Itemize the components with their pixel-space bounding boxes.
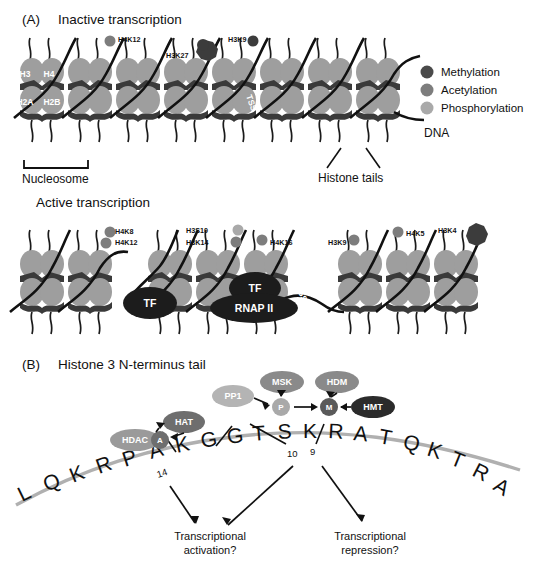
modification-mark — [231, 237, 242, 248]
modification-mark — [248, 36, 259, 47]
legend-label-phosphorylation: Phosphorylation — [441, 102, 523, 114]
enzyme-label-pp1: PP1 — [224, 391, 241, 401]
legend-swatch-methylation — [421, 66, 434, 79]
core-label-h4: H4 — [44, 69, 55, 79]
panel-b-title: Histone 3 N-terminus tail — [58, 357, 206, 372]
enzyme-label-msk: MSK — [272, 377, 293, 387]
modification-mark — [233, 225, 244, 236]
modification-mark — [105, 36, 116, 47]
panel-a-title: Inactive transcription — [58, 12, 182, 27]
modification-mark — [105, 227, 116, 238]
modification-label-acetyl: A — [157, 436, 163, 445]
modification-label-methyl: M — [326, 403, 333, 412]
mark-label-h3s10: H3S10 — [186, 226, 208, 235]
mark-label-h4k12: H4K12 — [115, 238, 137, 247]
mark-label-h4k8: H4K8 — [115, 227, 133, 236]
dna-label: DNA — [424, 126, 449, 140]
enzyme-label-hat: HAT — [175, 417, 193, 427]
legend-label-methylation: Methylation — [441, 66, 500, 78]
seq-letter: R — [328, 419, 344, 443]
mark-label-h4k5: H4K5 — [406, 229, 424, 238]
modification-mark — [393, 227, 404, 238]
modification-mark — [349, 235, 360, 246]
panel-a-tag: (A) — [22, 12, 40, 27]
enzyme-label-hmt: HMT — [363, 402, 383, 412]
enzyme-label-hdac: HDAC — [122, 435, 148, 445]
modification-mark — [197, 39, 209, 51]
mark-label-h3k9: H3K9 — [328, 238, 346, 247]
mark-label-h4k12: H4K12 — [118, 35, 140, 44]
figure-root: (A) Inactive transcription H3 H4 H2A H2B… — [0, 0, 535, 565]
seq-letter: G — [225, 423, 244, 448]
panel-a-subtitle: Active transcription — [36, 195, 150, 210]
enzyme-label-hdm: HDM — [327, 377, 348, 387]
modification-mark — [257, 235, 268, 246]
mark-label-h3k27: H3K27 — [166, 51, 188, 60]
mark-label-h3k14: H3K14 — [186, 238, 208, 247]
mark-label-h3k9: H3K9 — [228, 35, 246, 44]
panel-b-tag: (B) — [22, 357, 40, 372]
histone-tails-label: Histone tails — [318, 171, 383, 185]
modification-label-phospho: P — [278, 403, 284, 412]
mark-label-h4k16: H4K16 — [270, 238, 292, 247]
outcome-activation-line2: activation? — [184, 544, 237, 556]
outcome-repression-line2: repression? — [341, 544, 398, 556]
outcome-repression-line1: Transcriptional — [334, 530, 406, 542]
position-number-9: 9 — [310, 446, 315, 457]
core-label-h3: H3 — [20, 69, 31, 79]
rnap-label: RNAP II — [235, 302, 273, 314]
tf-label: TF — [249, 282, 262, 294]
legend-label-acetylation: Acetylation — [441, 84, 497, 96]
mark-label-h3k4: H3K4 — [438, 226, 456, 235]
legend-swatch-acetylation — [421, 84, 434, 97]
seq-letter: T — [251, 421, 266, 445]
position-number-10: 10 — [287, 448, 298, 459]
seq-letter: A — [353, 421, 369, 445]
figure-canvas: (A) Inactive transcription H3 H4 H2A H2B… — [0, 0, 535, 565]
legend-swatch-phosphorylation — [421, 102, 434, 115]
seq-letter: K — [303, 419, 317, 442]
modification-mark — [101, 238, 112, 249]
core-label-h2a: H2A — [16, 97, 33, 107]
core-label-h2b: H2B — [43, 97, 60, 107]
tf-label: TF — [144, 297, 157, 309]
nucleosome-label: Nucleosome — [22, 172, 89, 186]
outcome-activation-line1: Transcriptional — [174, 530, 246, 542]
